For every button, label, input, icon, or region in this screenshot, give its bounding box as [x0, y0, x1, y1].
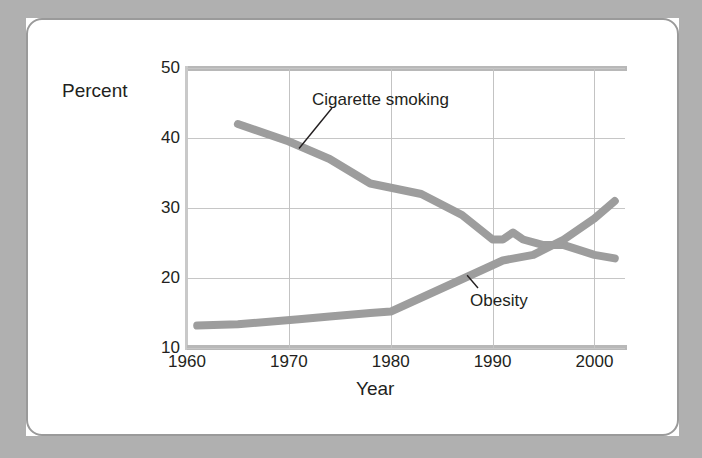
series-line-obesity	[197, 201, 615, 326]
series-label-obesity: Obesity	[470, 291, 528, 311]
leader-line-cigarette-smoking	[299, 108, 332, 149]
line-chart: Percent Year 1020304050 1960197019801990…	[0, 0, 702, 458]
chart-page: Percent Year 1020304050 1960197019801990…	[0, 0, 702, 458]
series-label-cigarette-smoking: Cigarette smoking	[312, 90, 449, 110]
series-layer	[0, 0, 702, 458]
